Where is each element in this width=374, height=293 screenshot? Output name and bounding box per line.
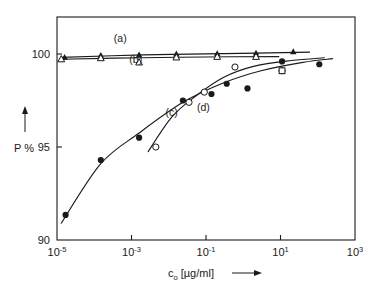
marker-extra-b — [279, 68, 285, 74]
marker-d — [186, 99, 192, 105]
marker-c — [208, 91, 214, 97]
curve-label-d: (d) — [197, 101, 210, 113]
scientific-scatter-plot: (a)(b)(c)(d) 10-510-310-11011039095100 P… — [0, 0, 374, 293]
curve-label-b: (b) — [129, 53, 142, 65]
marker-c — [224, 81, 230, 87]
y-tick-label: 100 — [32, 48, 50, 60]
y-tick-label: 90 — [38, 234, 50, 246]
marker-c — [279, 58, 285, 64]
marker-d — [201, 89, 207, 95]
marker-d — [232, 64, 238, 70]
y-axis-label: P % — [14, 142, 34, 154]
curve-label-c: (c) — [166, 106, 178, 118]
marker-c — [244, 85, 250, 91]
marker-d — [153, 144, 159, 150]
marker-c — [98, 157, 104, 163]
curve-label-a: (a) — [114, 32, 127, 44]
marker-c — [180, 97, 186, 103]
y-tick-label: 95 — [38, 141, 50, 153]
marker-c — [136, 135, 142, 141]
marker-c — [62, 212, 68, 218]
marker-c — [316, 61, 322, 67]
chart-figure: (a)(b)(c)(d) 10-510-310-11011039095100 P… — [0, 0, 374, 293]
